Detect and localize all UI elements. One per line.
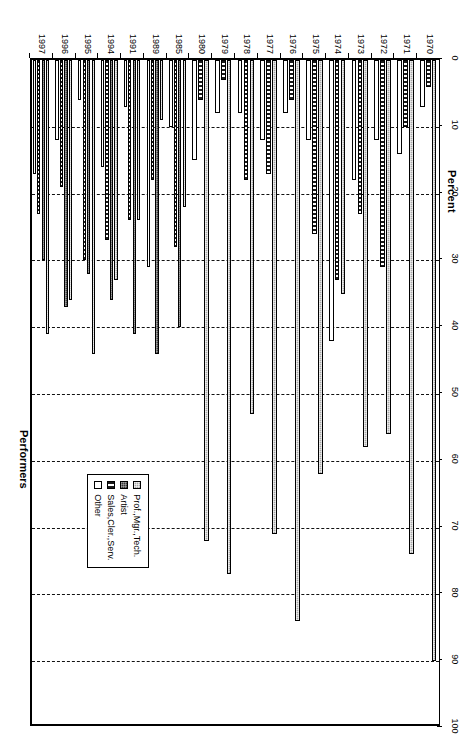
- bar: [87, 60, 90, 274]
- bar: [46, 60, 49, 334]
- category-label: 1975: [311, 4, 321, 54]
- category-label: 1979: [220, 4, 230, 54]
- bar: [78, 60, 81, 100]
- bar: [358, 60, 363, 214]
- bar: [250, 60, 255, 414]
- chart-legend: Prof.,Mgr.,Tech.ArtistSales,Cler.,Serv.O…: [87, 474, 149, 567]
- legend-label: Sales,Cler.,Serv.: [107, 494, 117, 560]
- bar: [160, 60, 163, 120]
- bar: [283, 60, 288, 113]
- bar: [266, 60, 271, 174]
- legend-item: Artist: [118, 481, 131, 560]
- bar: [312, 60, 317, 234]
- category-label: 1973: [356, 4, 366, 54]
- legend-item: Sales,Cler.,Serv.: [105, 481, 118, 560]
- value-tick-label: 10: [450, 120, 460, 130]
- category-label: 1970: [425, 4, 435, 54]
- chart-figure: Percent Performers 010203040506070809010…: [0, 0, 466, 754]
- category-label: 1976: [288, 4, 298, 54]
- bar: [426, 60, 431, 87]
- category-label: 1994: [106, 4, 116, 54]
- legend-swatch-s1: [121, 481, 129, 489]
- bar: [114, 60, 117, 280]
- category-label: 1991: [129, 4, 139, 54]
- category-label: 1971: [402, 4, 412, 54]
- bar: [397, 60, 402, 154]
- category-label: 1972: [379, 4, 389, 54]
- bar: [409, 60, 414, 554]
- bar: [156, 60, 159, 354]
- bar: [380, 60, 385, 267]
- bar: [306, 60, 311, 140]
- value-axis-ticks: 0102030405060708090100: [440, 58, 460, 726]
- bar: [420, 60, 425, 107]
- bar: [198, 60, 203, 100]
- bar: [178, 60, 181, 327]
- legend-label: Artist: [120, 494, 130, 515]
- bar: [83, 60, 86, 260]
- legend-swatch-s0: [134, 481, 142, 489]
- bar: [335, 60, 340, 280]
- bar: [374, 60, 379, 140]
- bar: [92, 60, 95, 354]
- bar: [289, 60, 294, 100]
- chart-canvas: Percent Performers 010203040506070809010…: [0, 0, 466, 754]
- bar: [124, 60, 127, 107]
- bar: [352, 60, 357, 180]
- bar: [215, 60, 220, 113]
- plot-area: Prof.,Mgr.,Tech.ArtistSales,Cler.,Serv.O…: [30, 58, 440, 726]
- bar: [318, 60, 323, 474]
- bar: [227, 60, 232, 574]
- bar: [151, 60, 154, 180]
- legend-label: Other: [94, 494, 104, 517]
- bar: [60, 60, 63, 187]
- value-tick-label: 40: [450, 320, 460, 330]
- value-tick-label: 20: [450, 187, 460, 197]
- bar: [192, 60, 197, 160]
- legend-label: Prof.,Mgr.,Tech.: [133, 494, 143, 557]
- category-label: 1978: [242, 4, 252, 54]
- bar: [110, 60, 113, 300]
- value-tick-label: 0: [450, 55, 460, 60]
- bar: [432, 60, 437, 661]
- value-tick-mark: [437, 726, 442, 727]
- bar: [183, 60, 186, 207]
- bar: [386, 60, 391, 434]
- chart-title: Performers: [18, 430, 30, 489]
- bar: [295, 60, 300, 621]
- value-tick-label: 100: [450, 718, 460, 733]
- bar: [272, 60, 277, 534]
- legend-swatch-s3: [95, 481, 103, 489]
- bar: [133, 60, 136, 334]
- category-label: 1995: [83, 4, 93, 54]
- bar: [69, 60, 72, 300]
- category-label: 1980: [197, 4, 207, 54]
- bar: [238, 60, 243, 113]
- value-tick-label: 50: [450, 387, 460, 397]
- bar: [169, 60, 172, 127]
- value-tick-label: 30: [450, 253, 460, 263]
- bar: [244, 60, 249, 180]
- category-label: 1989: [151, 4, 161, 54]
- category-label: 1977: [265, 4, 275, 54]
- gridline: [32, 594, 439, 595]
- category-axis-labels: 1970197119721973197419751976197719781979…: [30, 0, 440, 58]
- bar: [128, 60, 131, 220]
- legend-item: Prof.,Mgr.,Tech.: [131, 481, 144, 560]
- bar: [329, 60, 334, 341]
- bar: [221, 60, 226, 80]
- bar: [137, 60, 140, 220]
- bar: [33, 60, 36, 174]
- bar: [106, 60, 109, 240]
- value-tick-label: 60: [450, 454, 460, 464]
- legend-item: Other: [92, 481, 105, 560]
- legend-swatch-s2: [108, 481, 116, 489]
- bar: [56, 60, 59, 140]
- bar: [261, 60, 266, 140]
- bar: [174, 60, 177, 247]
- category-label: 1997: [37, 4, 47, 54]
- category-label: 1974: [334, 4, 344, 54]
- value-tick-label: 80: [450, 587, 460, 597]
- bar: [341, 60, 346, 294]
- bar: [42, 60, 45, 260]
